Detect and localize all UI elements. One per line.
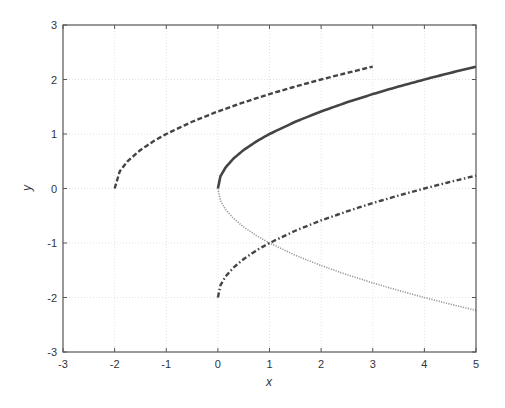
x-tick-label: -3 bbox=[58, 358, 68, 370]
x-tick-label: -1 bbox=[161, 358, 171, 370]
y-tick-label: -1 bbox=[47, 237, 57, 249]
x-tick-label: 4 bbox=[421, 358, 427, 370]
chart-background bbox=[0, 0, 505, 408]
y-tick-label: 1 bbox=[51, 128, 57, 140]
y-tick-label: -3 bbox=[47, 346, 57, 358]
y-axis-label: y bbox=[20, 184, 34, 192]
x-tick-label: 3 bbox=[370, 358, 376, 370]
x-tick-label: 2 bbox=[318, 358, 324, 370]
y-tick-label: 0 bbox=[51, 183, 57, 195]
x-tick-label: 0 bbox=[215, 358, 221, 370]
x-tick-label: 1 bbox=[266, 358, 272, 370]
y-tick-label: -2 bbox=[47, 292, 57, 304]
x-tick-label: -2 bbox=[110, 358, 120, 370]
y-tick-label: 2 bbox=[51, 74, 57, 86]
x-axis-label: x bbox=[265, 375, 273, 389]
x-tick-label: 5 bbox=[473, 358, 479, 370]
chart: -3-2-1012345-3-2-10123 x y bbox=[0, 0, 505, 408]
y-tick-label: 3 bbox=[51, 19, 57, 31]
